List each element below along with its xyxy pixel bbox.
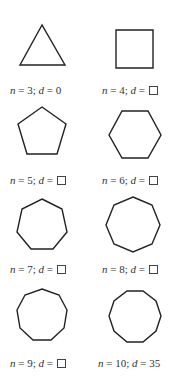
equals-sign: = xyxy=(44,357,56,369)
equals-sign: = xyxy=(16,263,28,275)
pentagon-shape xyxy=(18,107,66,154)
blank-answer-box[interactable] xyxy=(149,176,158,185)
equals-sign: = xyxy=(44,174,56,186)
equals-sign: = xyxy=(136,263,148,275)
blank-answer-box[interactable] xyxy=(57,265,66,274)
equals-sign: = xyxy=(44,84,56,96)
n-value: 10 xyxy=(115,357,126,369)
blank-answer-box[interactable] xyxy=(57,176,66,185)
blank-answer-box[interactable] xyxy=(57,359,66,368)
equals-sign: = xyxy=(16,174,28,186)
nonagon-shape xyxy=(17,289,67,340)
d-value: 0 xyxy=(56,84,62,96)
label-hexagon: n = 6; d = xyxy=(102,174,158,187)
square-shape xyxy=(116,30,153,68)
triangle-shape xyxy=(20,25,65,65)
equals-sign: = xyxy=(16,357,28,369)
blank-answer-box[interactable] xyxy=(149,86,158,95)
label-nonagon: n = 9; d = xyxy=(10,357,66,370)
equals-sign: = xyxy=(108,84,120,96)
equals-sign: = xyxy=(104,357,116,369)
label-pentagon: n = 5; d = xyxy=(10,174,66,187)
octagon-shape xyxy=(106,197,160,252)
blank-answer-box[interactable] xyxy=(149,265,158,274)
decagon-shape xyxy=(109,291,161,342)
equals-sign: = xyxy=(44,263,56,275)
equals-sign: = xyxy=(138,357,150,369)
label-decagon: n = 10; d = 35 xyxy=(98,357,160,370)
equals-sign: = xyxy=(136,174,148,186)
equals-sign: = xyxy=(136,84,148,96)
equals-sign: = xyxy=(108,263,120,275)
equals-sign: = xyxy=(108,174,120,186)
heptagon-shape xyxy=(17,199,67,249)
label-octagon: n = 8; d = xyxy=(102,263,158,276)
polygon-diagram xyxy=(0,0,186,379)
d-value: 35 xyxy=(149,357,160,369)
label-square: n = 4; d = xyxy=(102,84,158,97)
label-heptagon: n = 7; d = xyxy=(10,263,66,276)
equals-sign: = xyxy=(16,84,28,96)
label-triangle: n = 3; d = 0 xyxy=(10,84,61,97)
hexagon-shape xyxy=(109,111,161,158)
